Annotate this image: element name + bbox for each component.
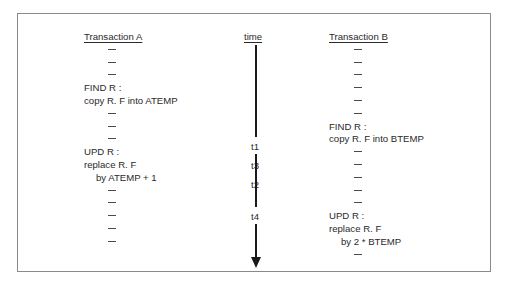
dash-mark	[108, 190, 116, 191]
time-axis-segment	[255, 173, 257, 207]
dash-mark	[108, 241, 116, 242]
dash-mark	[354, 202, 362, 203]
dash-mark	[108, 74, 116, 75]
time-axis-segment	[255, 224, 257, 257]
transaction-a-steps: FIND R :copy R. F into ATEMPUPD R :repla…	[84, 44, 178, 249]
step-placeholder-dash	[84, 69, 178, 82]
step-placeholder-dash	[84, 108, 178, 121]
step-text: by 2 * BTEMP	[329, 236, 424, 249]
dash-mark	[354, 190, 362, 191]
time-point-t4: t4	[243, 211, 267, 223]
step-text: UPD R :	[329, 210, 424, 223]
step-placeholder-dash	[329, 185, 424, 198]
time-header: time	[244, 31, 262, 44]
step-placeholder-dash	[329, 197, 424, 210]
dash-mark	[354, 177, 362, 178]
dash-mark	[108, 126, 116, 127]
step-text: copy R. F into ATEMP	[84, 95, 178, 108]
step-placeholder-dash	[84, 185, 178, 198]
step-placeholder-dash	[84, 121, 178, 134]
dash-mark	[354, 113, 362, 114]
step-text: replace R. F	[84, 159, 178, 172]
transaction-b-column: Transaction B FIND R :copy R. F into BTE…	[329, 31, 424, 261]
dash-mark	[354, 62, 362, 63]
time-arrow-head-icon	[251, 257, 261, 268]
dash-mark	[354, 49, 362, 50]
transaction-a-header: Transaction A	[84, 31, 178, 44]
transaction-b-steps: FIND R :copy R. F into BTEMPUPD R :repla…	[329, 44, 424, 262]
dash-mark	[108, 49, 116, 50]
dash-mark	[354, 254, 362, 255]
dash-mark	[354, 74, 362, 75]
step-placeholder-dash	[84, 223, 178, 236]
dash-mark	[108, 62, 116, 63]
step-placeholder-dash	[329, 108, 424, 121]
step-text: FIND R :	[84, 82, 178, 95]
dash-mark	[354, 87, 362, 88]
step-text: copy R. F into BTEMP	[329, 133, 424, 146]
step-placeholder-dash	[84, 236, 178, 249]
dash-mark	[108, 113, 116, 114]
time-point-t1: t1	[243, 141, 267, 153]
step-placeholder-dash	[329, 172, 424, 185]
dash-mark	[354, 151, 362, 152]
step-placeholder-dash	[84, 210, 178, 223]
dash-mark	[354, 100, 362, 101]
step-text: UPD R :	[84, 146, 178, 159]
step-placeholder-dash	[329, 249, 424, 262]
dash-mark	[108, 215, 116, 216]
step-placeholder-dash	[84, 197, 178, 210]
dash-mark	[354, 164, 362, 165]
step-placeholder-dash	[329, 69, 424, 82]
dash-mark	[108, 202, 116, 203]
transaction-b-header: Transaction B	[329, 31, 424, 44]
time-axis-segment	[255, 45, 257, 137]
step-placeholder-dash	[329, 82, 424, 95]
step-placeholder-dash	[329, 57, 424, 70]
step-placeholder-dash	[329, 146, 424, 159]
step-text: by ATEMP + 1	[84, 172, 178, 185]
transaction-a-column: Transaction A FIND R :copy R. F into ATE…	[84, 31, 178, 249]
dash-mark	[108, 228, 116, 229]
step-placeholder-dash	[84, 57, 178, 70]
dash-mark	[108, 138, 116, 139]
step-placeholder-dash	[84, 133, 178, 146]
step-placeholder-dash	[329, 95, 424, 108]
step-text: replace R. F	[329, 223, 424, 236]
step-placeholder-dash	[329, 44, 424, 57]
step-placeholder-dash	[329, 159, 424, 172]
step-text: FIND R :	[329, 121, 424, 134]
step-placeholder-dash	[84, 44, 178, 57]
